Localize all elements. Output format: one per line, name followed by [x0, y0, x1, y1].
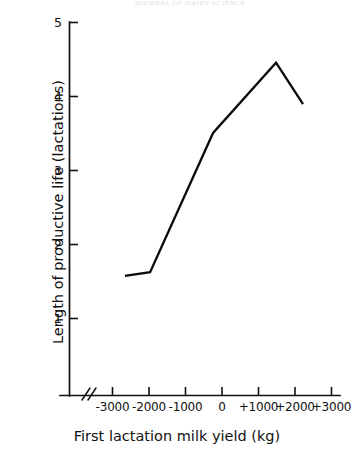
- x-tick-label-minus3000: -3000: [96, 400, 130, 414]
- y-tick-label-5: 5: [40, 15, 62, 30]
- x-tick-label-minus2000: -2000: [132, 400, 166, 414]
- axis-break-icon: [82, 388, 96, 400]
- x-tick-label-plus1000: +1000: [239, 400, 279, 414]
- x-tick-label-zero: 0: [218, 400, 225, 414]
- x-tick-label-plus2000: +2000: [275, 400, 315, 414]
- x-tick-label-plus3000: +3000: [312, 400, 352, 414]
- y-axis-title: Length of productive life (lactations): [50, 52, 66, 372]
- x-axis-ticks: [113, 387, 332, 396]
- x-axis-title: First lactation milk yield (kg): [0, 428, 354, 444]
- chart-figure: JOURNAL OF DAIRY SCIENCE: [0, 0, 354, 457]
- x-tick-label-minus1000: -1000: [169, 400, 203, 414]
- data-series-line: [125, 63, 303, 276]
- y-axis-ticks: [70, 97, 79, 319]
